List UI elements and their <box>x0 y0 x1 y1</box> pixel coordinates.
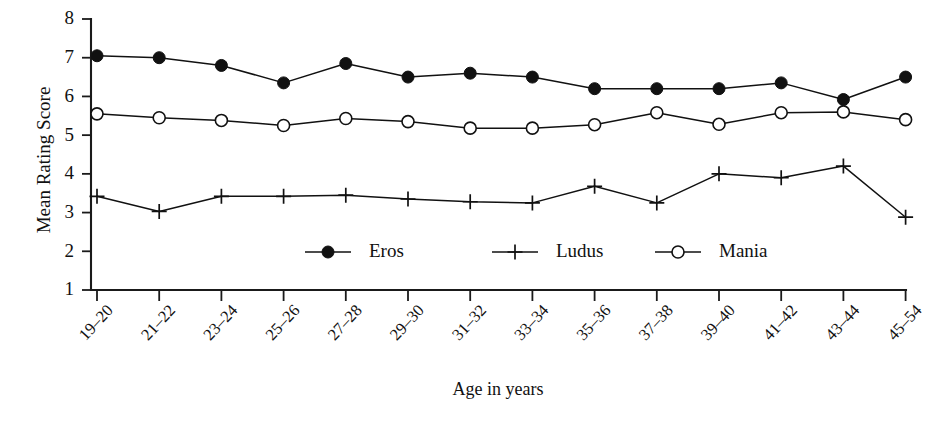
legend-item-eros: Eros <box>305 240 404 261</box>
y-tick-label: 2 <box>65 240 75 261</box>
x-tick-label: 43–44 <box>821 301 863 344</box>
legend-item-mania: Mania <box>655 240 768 261</box>
chart-legend: ErosLudusMania <box>305 240 768 261</box>
data-point-open-circle-icon <box>153 112 165 124</box>
x-tick-label: 33–34 <box>510 301 552 344</box>
chart-figure: Mean Rating Score 12345678 19–2021–2223–… <box>0 0 945 427</box>
data-point-plus-icon <box>276 189 291 204</box>
y-axis-tick-labels: 12345678 <box>65 7 75 299</box>
data-point-plus-icon <box>214 189 229 204</box>
x-tick-label: 45–54 <box>883 301 925 344</box>
y-tick-label: 5 <box>65 124 75 145</box>
data-point-filled-circle-icon <box>900 71 912 83</box>
data-point-open-circle-icon <box>402 116 414 128</box>
legend-label-ludus: Ludus <box>556 240 604 261</box>
data-point-open-circle-icon <box>837 106 849 118</box>
data-point-open-circle-icon <box>589 119 601 131</box>
data-point-plus-icon <box>508 245 523 260</box>
data-point-open-circle-icon <box>91 108 103 120</box>
x-tick-label: 19–20 <box>75 301 117 344</box>
data-point-open-circle-icon <box>900 114 912 126</box>
y-axis-title: Mean Rating Score <box>33 87 54 234</box>
data-point-plus-icon <box>338 188 353 203</box>
data-point-open-circle-icon <box>672 246 684 258</box>
data-point-open-circle-icon <box>464 122 476 134</box>
data-point-filled-circle-icon <box>775 77 787 89</box>
x-tick-label: 29–30 <box>386 301 428 344</box>
series-mania <box>91 106 912 134</box>
legend-item-ludus: Ludus <box>492 240 604 261</box>
y-tick-label: 4 <box>65 162 75 183</box>
data-point-open-circle-icon <box>651 107 663 119</box>
y-axis-ticks <box>82 19 91 290</box>
x-tick-label: 35–36 <box>572 301 614 344</box>
data-point-open-circle-icon <box>775 107 787 119</box>
data-point-plus-icon <box>152 204 167 219</box>
data-point-filled-circle-icon <box>526 71 538 83</box>
data-point-filled-circle-icon <box>651 83 663 95</box>
data-point-plus-icon <box>401 192 416 207</box>
data-point-plus-icon <box>712 166 727 181</box>
y-tick-label: 1 <box>65 278 75 299</box>
data-point-filled-circle-icon <box>464 67 476 79</box>
data-point-plus-icon <box>774 170 789 185</box>
series-line-ludus <box>97 166 906 217</box>
x-tick-label: 25–26 <box>261 301 303 344</box>
data-point-filled-circle-icon <box>837 94 849 106</box>
data-point-filled-circle-icon <box>91 50 103 62</box>
series-eros <box>91 50 912 106</box>
data-point-filled-circle-icon <box>153 52 165 64</box>
y-tick-label: 6 <box>65 85 75 106</box>
x-axis-ticks <box>97 290 906 301</box>
data-point-filled-circle-icon <box>402 71 414 83</box>
data-point-open-circle-icon <box>278 119 290 131</box>
data-point-filled-circle-icon <box>278 77 290 89</box>
legend-label-eros: Eros <box>369 240 404 261</box>
data-point-filled-circle-icon <box>215 59 227 71</box>
x-tick-label: 27–28 <box>324 301 366 344</box>
data-point-plus-icon <box>525 195 540 210</box>
x-tick-label: 39–40 <box>697 301 739 344</box>
data-point-filled-circle-icon <box>322 246 334 258</box>
data-point-plus-icon <box>587 179 602 194</box>
series-ludus <box>90 159 914 225</box>
data-point-filled-circle-icon <box>340 58 352 70</box>
data-point-plus-icon <box>463 194 478 209</box>
y-tick-label: 3 <box>65 201 75 222</box>
x-tick-label: 37–38 <box>635 301 677 344</box>
data-point-filled-circle-icon <box>589 83 601 95</box>
x-axis-title: Age in years <box>453 379 544 399</box>
x-tick-label: 41–42 <box>759 301 801 344</box>
line-chart: Mean Rating Score 12345678 19–2021–2223–… <box>0 0 945 427</box>
data-series-group <box>90 50 914 225</box>
x-tick-label: 23–24 <box>199 301 241 344</box>
data-point-open-circle-icon <box>713 118 725 130</box>
y-tick-label: 8 <box>65 7 75 28</box>
x-tick-label: 21–22 <box>137 301 179 344</box>
legend-label-mania: Mania <box>719 240 768 261</box>
data-point-plus-icon <box>649 195 664 210</box>
y-tick-label: 7 <box>65 46 75 67</box>
data-point-open-circle-icon <box>526 122 538 134</box>
data-point-filled-circle-icon <box>713 83 725 95</box>
data-point-open-circle-icon <box>215 114 227 126</box>
x-tick-label: 31–32 <box>448 301 490 344</box>
x-axis-tick-labels: 19–2021–2223–2425–2627–2829–3031–3233–34… <box>75 301 926 344</box>
data-point-open-circle-icon <box>340 112 352 124</box>
